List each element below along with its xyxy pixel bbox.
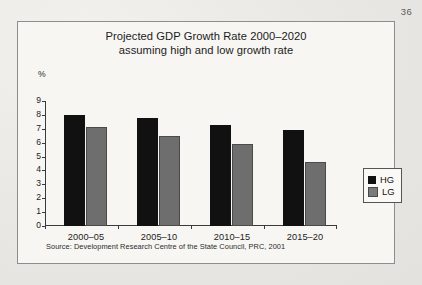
y-axis-tick-label: 2 <box>29 192 41 202</box>
bar-group: 2000–05 <box>64 101 107 226</box>
bar-group: 2005–10 <box>137 101 180 226</box>
y-axis-tick-label: 5 <box>29 151 41 161</box>
chart-title-line2: assuming high and low growth rate <box>18 44 394 58</box>
y-axis-tick-label: 6 <box>29 137 41 147</box>
legend-swatch-hg <box>368 176 376 184</box>
x-axis-tick <box>336 226 337 229</box>
y-axis-tick-label: 1 <box>29 206 41 216</box>
x-axis-category-label: 2015–20 <box>274 232 336 242</box>
legend-item-hg: HG <box>368 174 395 185</box>
legend-swatch-lg <box>368 187 378 197</box>
chart-title: Projected GDP Growth Rate 2000–2020 assu… <box>18 30 394 57</box>
x-axis-tick <box>118 226 119 229</box>
y-axis-tick-label: 0 <box>29 220 41 230</box>
plot-area: 0123456789 2000–052005–102010–152015–20 <box>45 101 337 226</box>
bar-hg-2015–20 <box>283 130 304 226</box>
x-axis-category-label: 2005–10 <box>128 232 190 242</box>
y-axis-unit-label: % <box>38 69 46 79</box>
legend-item-lg: LG <box>368 186 395 197</box>
x-axis-category-label: 2000–05 <box>55 232 117 242</box>
bar-group: 2010–15 <box>210 101 253 226</box>
y-axis-tick-label: 3 <box>29 178 41 188</box>
chart-title-line1: Projected GDP Growth Rate 2000–2020 <box>105 30 306 42</box>
y-axis-tick-label: 9 <box>29 95 41 105</box>
legend-label-hg: HG <box>380 174 394 185</box>
bar-lg-2005–10 <box>159 136 180 226</box>
bar-groups: 2000–052005–102010–152015–20 <box>45 101 337 226</box>
y-axis-tick-label: 7 <box>29 123 41 133</box>
bar-lg-2000–05 <box>86 127 107 226</box>
legend-label-lg: LG <box>382 186 395 197</box>
y-axis-tick-label: 8 <box>29 109 41 119</box>
bar-lg-2015–20 <box>305 162 326 226</box>
page-number: 36 <box>401 6 412 17</box>
y-axis-tick-label: 4 <box>29 164 41 174</box>
bar-hg-2005–10 <box>137 118 158 226</box>
bar-hg-2000–05 <box>64 115 85 226</box>
x-axis-tick <box>264 226 265 229</box>
figure-frame: Projected GDP Growth Rate 2000–2020 assu… <box>17 21 395 264</box>
chart-legend: HG LG <box>363 168 402 203</box>
x-axis-tick <box>45 226 46 229</box>
source-note: Source: Development Research Centre of t… <box>46 242 285 251</box>
x-axis-category-label: 2010–15 <box>201 232 263 242</box>
bar-lg-2010–15 <box>232 144 253 226</box>
bar-hg-2010–15 <box>210 125 231 226</box>
x-axis-tick <box>191 226 192 229</box>
bar-group: 2015–20 <box>283 101 326 226</box>
